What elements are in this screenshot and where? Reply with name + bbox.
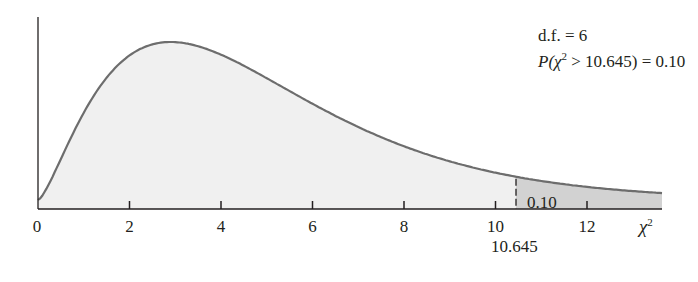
x-tick-label: 8 [400, 217, 409, 237]
x-tick-label: 4 [217, 217, 226, 237]
x-tick-label: 6 [308, 217, 317, 237]
chi-symbol: χ [554, 52, 561, 71]
p-prefix: P( [538, 52, 554, 71]
tail-area-label: 0.10 [527, 194, 557, 211]
probability-annotation: P(χ2 > 10.645) = 0.10 [538, 46, 685, 72]
chi-square-plot [0, 0, 698, 282]
x-axis-title: χ2 [639, 217, 653, 236]
chi-exponent: 2 [647, 216, 653, 228]
x-tick-label: 12 [579, 217, 596, 237]
x-tick-label: 0 [33, 217, 42, 237]
x-tick-label: 2 [125, 217, 134, 237]
df-annotation: d.f. = 6 [538, 26, 587, 46]
x-tick-label: 10 [487, 217, 504, 237]
critical-value-label: 10.645 [491, 238, 538, 255]
p-suffix: > 10.645) = 0.10 [567, 52, 685, 71]
